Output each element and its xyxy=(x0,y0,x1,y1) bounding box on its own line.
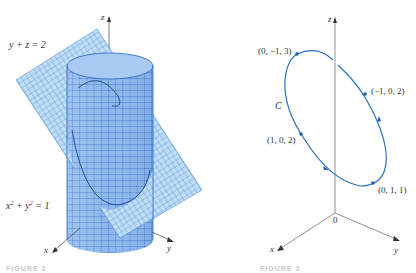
figure-caption: FIGURE 3 xyxy=(260,265,300,272)
figure-cylinder-plane: y + z = 2 x2 + y2 = 1 z x y FIGURE 2 xyxy=(0,0,210,273)
z-axis-arrow-icon xyxy=(107,16,111,22)
z-axis-label: z xyxy=(328,15,332,24)
direction-arrow-icon xyxy=(377,116,381,122)
curve-label-c: C xyxy=(275,101,282,111)
x-axis-label: x xyxy=(270,245,274,254)
y-axis-arrow-icon xyxy=(167,237,174,242)
point-label-0-neg1-3: (0, −1, 3) xyxy=(258,47,292,56)
figure-caption: FIGURE 2 xyxy=(6,265,46,272)
z-axis-label: z xyxy=(101,13,105,22)
y-axis-label: y xyxy=(167,244,171,253)
point-0-neg1-3 xyxy=(295,52,299,56)
y-axis xyxy=(335,213,396,239)
point-label-neg1-0-2: (−1, 0, 2) xyxy=(371,87,405,96)
cylinder-equation-label: x2 + y2 = 1 xyxy=(6,200,49,211)
y-axis-label: y xyxy=(394,246,398,255)
point-label-1-0-2: (1, 0, 2) xyxy=(267,136,296,145)
point-neg1-0-2 xyxy=(363,92,367,96)
y-axis xyxy=(152,232,170,240)
point-0-1-1 xyxy=(371,181,375,185)
x-axis xyxy=(281,213,335,248)
x-axis-arrow-icon xyxy=(277,245,284,251)
y-axis-arrow-icon xyxy=(393,236,400,241)
figure-curve-c: (0, −1, 3) (−1, 0, 2) (1, 0, 2) (0, 1, 1… xyxy=(210,0,416,273)
z-axis-arrow-icon xyxy=(333,17,337,23)
origin-label: 0 xyxy=(333,216,338,225)
curve-c xyxy=(285,54,386,186)
x-axis-label: x xyxy=(44,246,48,255)
point-1-0-2 xyxy=(299,132,303,136)
curve-c-graphic xyxy=(210,0,416,273)
point-label-0-1-1: (0, 1, 1) xyxy=(378,186,407,195)
plane-equation-label: y + z = 2 xyxy=(9,40,46,50)
curve-c-segment-back xyxy=(297,51,333,60)
